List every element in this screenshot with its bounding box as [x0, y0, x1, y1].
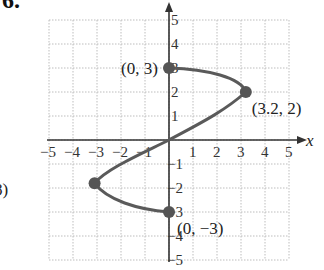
- point-label: (−3.1, −1.8): [0, 180, 8, 199]
- x-tick-label: −5: [40, 144, 56, 160]
- x-tick-label: 2: [213, 144, 221, 160]
- x-axis-label: x: [305, 131, 314, 150]
- data-point: [240, 86, 252, 98]
- data-point: [89, 177, 101, 189]
- y-tick-label: 2: [171, 84, 179, 100]
- x-tick-label: 1: [189, 144, 197, 160]
- graph: 6. −5−4−3−2−11234554321−1−2−3−4−5 (0, 3)…: [0, 0, 324, 270]
- y-tick-label: −1: [167, 156, 183, 172]
- y-tick-label: 1: [171, 108, 179, 124]
- y-tick-label: −2: [167, 180, 183, 196]
- point-label: (0, −3): [177, 219, 223, 238]
- data-point: [163, 206, 175, 218]
- y-tick-label: 5: [171, 12, 179, 28]
- point-label: (0, 3): [121, 59, 158, 78]
- y-tick-label: 4: [171, 36, 179, 52]
- x-tick-label: −3: [88, 144, 104, 160]
- x-tick-label: 3: [237, 144, 245, 160]
- problem-number: 6.: [2, 0, 20, 13]
- point-label: (3.2, 2): [252, 99, 302, 118]
- x-tick-label: 4: [261, 144, 269, 160]
- x-tick-label: −4: [64, 144, 80, 160]
- y-tick-label: −5: [167, 252, 183, 268]
- x-tick-label: −2: [112, 144, 128, 160]
- x-tick-label: 5: [285, 144, 293, 160]
- data-point: [163, 62, 175, 74]
